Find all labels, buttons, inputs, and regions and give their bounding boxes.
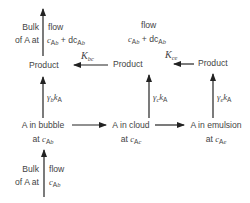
emulsion-reaction-label: γekA bbox=[217, 92, 231, 105]
bottom-of-a-at-label: of A at bbox=[3, 177, 39, 187]
top-left-concentration-expr: cAb + dcAb bbox=[47, 35, 85, 48]
kce-label: Kce bbox=[165, 50, 177, 63]
product-emulsion: Product bbox=[198, 58, 228, 68]
bottom-bulk-label: Bulk bbox=[19, 164, 39, 174]
product-cloud: Product bbox=[113, 59, 143, 69]
bubble-concentration: at cAb bbox=[14, 134, 72, 147]
top-bulk-label: Bulk bbox=[19, 22, 39, 32]
center-concentration-expr: cAb + dcAb bbox=[128, 34, 166, 47]
cloud-phase-label: A in cloud bbox=[106, 120, 156, 130]
top-flow-label: flow bbox=[48, 22, 63, 32]
bubble-reaction-label: γbkA bbox=[47, 92, 62, 105]
emulsion-concentration: at cAe bbox=[185, 134, 247, 147]
cloud-reaction-label: γckA bbox=[153, 92, 167, 105]
cloud-concentration: at cAc bbox=[106, 134, 156, 147]
bottom-concentration-expr: cAb bbox=[49, 177, 60, 190]
bottom-flow-label: flow bbox=[49, 164, 64, 174]
center-flow-label: flow bbox=[141, 20, 156, 30]
bubble-phase-label: A in bubble bbox=[14, 120, 72, 130]
kbc-label: Kbc bbox=[81, 51, 94, 64]
emulsion-phase-label: A in emulsion bbox=[185, 120, 247, 130]
product-bubble: Product bbox=[29, 60, 59, 70]
top-of-a-at-label: of A at bbox=[3, 35, 39, 45]
